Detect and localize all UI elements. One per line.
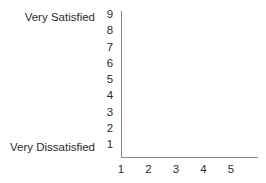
- y-tick: 5: [103, 71, 117, 87]
- plot-area: [122, 11, 258, 157]
- y-tick: 8: [103, 22, 117, 38]
- y-tick: 2: [103, 120, 117, 136]
- y-tick: 6: [103, 55, 117, 71]
- x-tick: 4: [196, 162, 212, 176]
- y-axis-low-anchor-label: Very Dissatisfied: [0, 141, 95, 153]
- y-tick: 3: [103, 104, 117, 120]
- y-axis-tick-labels: 9 8 7 6 5 4 3 2 1: [103, 6, 117, 153]
- satisfaction-scale-chart: Very Satisfied Very Dissatisfied 9 8 7 6…: [0, 0, 266, 183]
- x-tick: 3: [168, 162, 184, 176]
- y-tick: 1: [103, 136, 117, 152]
- y-axis-high-anchor-label: Very Satisfied: [0, 11, 95, 23]
- x-tick: 2: [141, 162, 157, 176]
- y-tick: 4: [103, 87, 117, 103]
- x-tick: 1: [113, 162, 129, 176]
- y-tick: 9: [103, 6, 117, 22]
- x-tick: 5: [223, 162, 239, 176]
- y-tick: 7: [103, 39, 117, 55]
- x-axis-line: [121, 157, 258, 158]
